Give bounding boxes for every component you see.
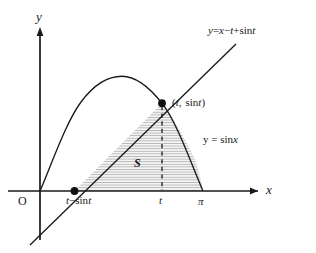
shaded-region <box>75 103 204 191</box>
line-equation-label: y=x−t+sint <box>208 25 255 36</box>
sine-eq-head: y = sin <box>203 133 233 145</box>
x-tick-pi: π <box>198 196 204 207</box>
point-y-fn: sin <box>185 96 198 108</box>
y-axis <box>37 27 44 240</box>
sine-eq-var: x <box>233 133 238 145</box>
tangency-point-label: (t,sint) <box>172 97 205 108</box>
math-figure: y x O y=x−t+sint y = sinx (t,sint) t−sin… <box>0 0 316 253</box>
figure-canvas <box>0 0 316 253</box>
origin-label: O <box>18 195 27 207</box>
tick-sin: sin <box>75 194 88 206</box>
line-eq-sin: sin <box>240 24 253 36</box>
y-axis-label: y <box>36 10 42 23</box>
tangency-point-marker <box>158 99 166 107</box>
tick-sin-arg: t <box>88 194 91 206</box>
point-comma: , <box>179 96 182 108</box>
x-tick-t-minus-sin-t: t−sint <box>66 195 91 206</box>
region-label-s: S <box>134 157 141 169</box>
sine-equation-label: y = sinx <box>203 134 238 145</box>
x-tick-t: t <box>159 195 162 206</box>
line-eq-sin-arg: t <box>252 24 255 36</box>
point-paren-close: ) <box>201 96 205 108</box>
x-axis-label: x <box>266 183 272 196</box>
